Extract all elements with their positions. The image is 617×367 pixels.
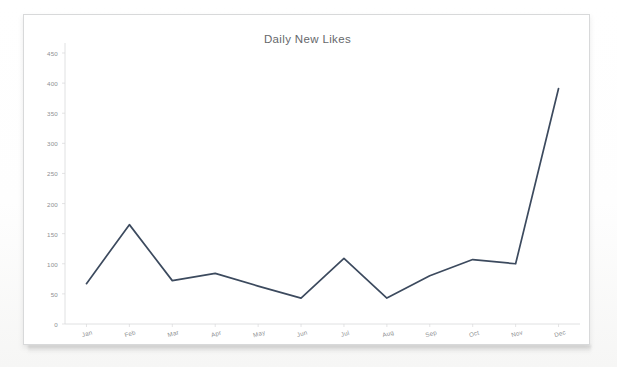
screenshot-root: Daily New Likes 050100150200250300350400… — [0, 0, 617, 367]
y-tick-label: 150 — [32, 230, 58, 237]
y-tick-label: 350 — [32, 110, 58, 117]
y-tick-label: 250 — [32, 170, 58, 177]
y-tick-label: 300 — [32, 140, 58, 147]
y-tick-label: 0 — [32, 321, 58, 328]
y-tick-label: 200 — [32, 200, 58, 207]
y-tick-label: 450 — [32, 50, 58, 57]
plot-area: 050100150200250300350400450 JanFebMarApr… — [24, 15, 591, 346]
y-tick-label: 50 — [32, 290, 58, 297]
y-tick-label: 400 — [32, 80, 58, 87]
y-tick-label: 100 — [32, 260, 58, 267]
line-chart-svg — [24, 15, 591, 346]
chart-card: Daily New Likes 050100150200250300350400… — [23, 14, 590, 345]
data-series-line — [86, 89, 558, 299]
card-drop-shadow — [28, 345, 591, 354]
